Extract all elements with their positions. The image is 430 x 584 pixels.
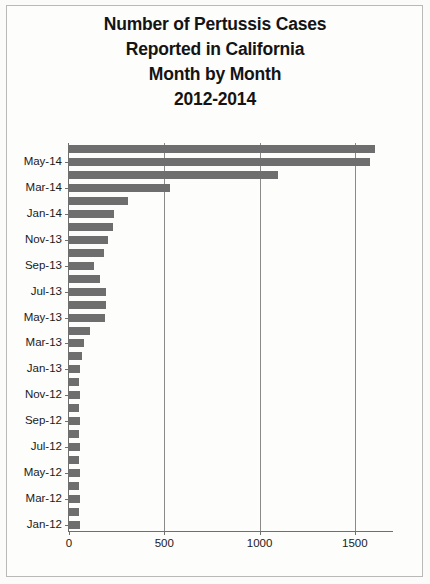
- bar: [69, 456, 79, 464]
- y-axis-label: Jul-13: [31, 286, 62, 298]
- bar: [69, 223, 113, 231]
- bar: [69, 249, 104, 257]
- y-axis-tick: [65, 447, 69, 448]
- x-axis-label: 1000: [247, 538, 273, 550]
- y-axis-label: Mar-12: [26, 493, 62, 505]
- plot-area: Jan-12Mar-12May-12Jul-12Sep-12Nov-12Jan-…: [68, 143, 393, 532]
- bar: [69, 469, 80, 477]
- chart-title-line-3: Month by Month: [20, 62, 410, 87]
- chart-title-line-1: Number of Pertussis Cases: [20, 12, 410, 37]
- bar: [69, 495, 80, 503]
- bar: [69, 314, 105, 322]
- chart-title: Number of Pertussis Cases Reported in Ca…: [20, 12, 410, 112]
- y-axis-tick: [65, 395, 69, 396]
- y-axis-tick: [65, 369, 69, 370]
- bar: [69, 236, 108, 244]
- y-axis-tick: [65, 473, 69, 474]
- bar: [69, 482, 79, 490]
- y-axis-tick: [65, 421, 69, 422]
- y-axis-tick: [65, 188, 69, 189]
- x-axis-tick: [355, 531, 356, 535]
- bar: [69, 288, 106, 296]
- bar: [69, 443, 80, 451]
- y-axis-label: Nov-12: [25, 389, 62, 401]
- chart-title-line-2: Reported in California: [20, 37, 410, 62]
- y-axis-label: May-13: [24, 312, 62, 324]
- y-axis-label: May-12: [24, 467, 62, 479]
- y-axis-label: Nov-13: [25, 234, 62, 246]
- y-axis-label: Jul-12: [31, 441, 62, 453]
- bar: [69, 391, 80, 399]
- y-axis-tick: [65, 214, 69, 215]
- bar: [69, 365, 80, 373]
- bar: [69, 404, 79, 412]
- bar: [69, 327, 90, 335]
- bar: [69, 262, 94, 270]
- y-axis-label: Jan-14: [27, 208, 62, 220]
- y-axis-tick: [65, 240, 69, 241]
- chart-page: Number of Pertussis Cases Reported in Ca…: [0, 0, 430, 584]
- y-axis-label: Jan-12: [27, 519, 62, 531]
- chart-title-line-4: 2012-2014: [20, 87, 410, 112]
- gridline: [355, 143, 356, 531]
- bar: [69, 508, 79, 516]
- bar: [69, 158, 370, 166]
- x-axis-tick: [69, 531, 70, 535]
- x-axis-label: 500: [155, 538, 174, 550]
- y-axis-label: Jan-13: [27, 364, 62, 376]
- y-axis-tick: [65, 343, 69, 344]
- y-axis-label: Sep-12: [25, 415, 62, 427]
- x-axis-tick: [260, 531, 261, 535]
- bar: [69, 145, 375, 153]
- gridline: [164, 143, 165, 531]
- y-axis-tick: [65, 292, 69, 293]
- x-axis-label: 0: [66, 538, 72, 550]
- bar: [69, 521, 80, 529]
- y-axis-tick: [65, 499, 69, 500]
- bar: [69, 352, 82, 360]
- y-axis-tick: [65, 266, 69, 267]
- x-axis-tick: [164, 531, 165, 535]
- bar: [69, 339, 84, 347]
- y-axis-tick: [65, 525, 69, 526]
- bar: [69, 275, 100, 283]
- bar: [69, 171, 278, 179]
- bar: [69, 301, 106, 309]
- bar: [69, 197, 128, 205]
- bar: [69, 184, 170, 192]
- x-axis-label: 1500: [342, 538, 368, 550]
- y-axis-label: Mar-14: [26, 183, 62, 195]
- y-axis-tick: [65, 162, 69, 163]
- bar: [69, 378, 79, 386]
- y-axis-label: May-14: [24, 157, 62, 169]
- y-axis-tick: [65, 318, 69, 319]
- y-axis-label: Sep-13: [25, 260, 62, 272]
- bar: [69, 210, 114, 218]
- y-axis-label: Mar-13: [26, 338, 62, 350]
- bar: [69, 430, 79, 438]
- bar: [69, 417, 80, 425]
- gridline: [260, 143, 261, 531]
